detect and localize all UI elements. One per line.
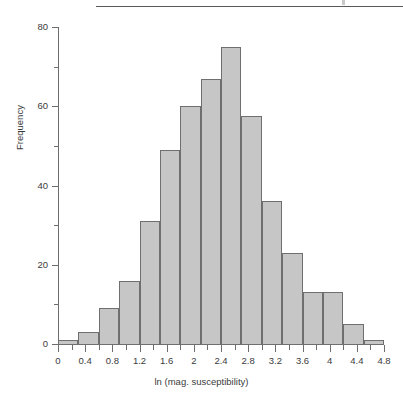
x-tick-minor xyxy=(343,345,344,350)
y-tick-major xyxy=(52,27,59,28)
x-tick-minor xyxy=(262,345,263,350)
histogram-bar xyxy=(323,292,343,345)
x-tick-minor xyxy=(289,345,290,350)
histogram-bar xyxy=(282,253,302,345)
x-tick-label: 2.4 xyxy=(214,355,227,366)
x-tick-label: 0.8 xyxy=(106,355,119,366)
y-tick-label: 80 xyxy=(37,22,48,32)
histogram-plot: 020406080 00.40.81.21.622.42.83.23.644.4… xyxy=(0,0,403,414)
x-tick-major xyxy=(303,345,304,352)
y-tick-major xyxy=(52,265,59,266)
histogram-bar xyxy=(78,332,98,345)
y-tick-minor xyxy=(54,67,59,68)
x-axis-title: ln (mag. susceptibility) xyxy=(0,376,403,387)
x-tick-label: 0 xyxy=(55,355,60,366)
histogram-bar xyxy=(262,201,282,345)
histogram-bar xyxy=(303,292,323,345)
x-tick-label: 2.8 xyxy=(242,355,255,366)
histogram-bar xyxy=(241,116,261,345)
x-tick-minor xyxy=(72,345,73,350)
y-tick-minor xyxy=(54,146,59,147)
x-tick-minor xyxy=(126,345,127,350)
histogram-bar xyxy=(221,47,241,345)
histogram-bar xyxy=(343,324,363,345)
y-tick-minor xyxy=(54,225,59,226)
y-tick-minor xyxy=(54,304,59,305)
y-tick-label: 40 xyxy=(37,181,48,191)
x-tick-label: 3.2 xyxy=(269,355,282,366)
x-tick-major xyxy=(85,345,86,352)
x-tick-label: 2 xyxy=(191,355,196,366)
x-tick-minor xyxy=(99,345,100,350)
x-tick-label: 3.6 xyxy=(296,355,309,366)
x-tick-major xyxy=(167,345,168,352)
x-tick-minor xyxy=(207,345,208,350)
histogram-bar xyxy=(58,340,78,345)
x-tick-minor xyxy=(235,345,236,350)
y-tick-major xyxy=(52,106,59,107)
y-tick-label: 60 xyxy=(37,101,48,111)
x-tick-major xyxy=(112,345,113,352)
x-tick-major xyxy=(275,345,276,352)
histogram-bar xyxy=(160,150,180,345)
x-tick-minor xyxy=(370,345,371,350)
x-tick-major xyxy=(221,345,222,352)
histogram-bar xyxy=(364,340,384,345)
histogram-bar xyxy=(180,106,200,345)
x-tick-minor xyxy=(153,345,154,350)
x-tick-label: 1.2 xyxy=(133,355,146,366)
y-tick-major xyxy=(52,186,59,187)
x-tick-major xyxy=(194,345,195,352)
histogram-bar xyxy=(119,281,139,345)
x-tick-label: 4.4 xyxy=(350,355,363,366)
x-tick-major xyxy=(58,345,59,352)
figure-container: 020406080 00.40.81.21.622.42.83.23.644.4… xyxy=(0,0,403,414)
y-axis-title: Frequency xyxy=(14,105,25,150)
x-tick-minor xyxy=(316,345,317,350)
x-tick-major xyxy=(384,345,385,352)
x-tick-label: 0.4 xyxy=(79,355,92,366)
x-tick-major xyxy=(140,345,141,352)
y-tick-label: 0 xyxy=(43,339,48,349)
x-tick-major xyxy=(330,345,331,352)
x-tick-major xyxy=(357,345,358,352)
histogram-bar xyxy=(201,79,221,345)
histogram-bar xyxy=(140,221,160,345)
x-tick-label: 1.6 xyxy=(160,355,173,366)
y-tick-label: 20 xyxy=(37,260,48,270)
x-tick-label: 4 xyxy=(327,355,332,366)
x-tick-major xyxy=(248,345,249,352)
x-tick-label: 4.8 xyxy=(377,355,390,366)
x-tick-minor xyxy=(180,345,181,350)
histogram-bar xyxy=(99,308,119,345)
